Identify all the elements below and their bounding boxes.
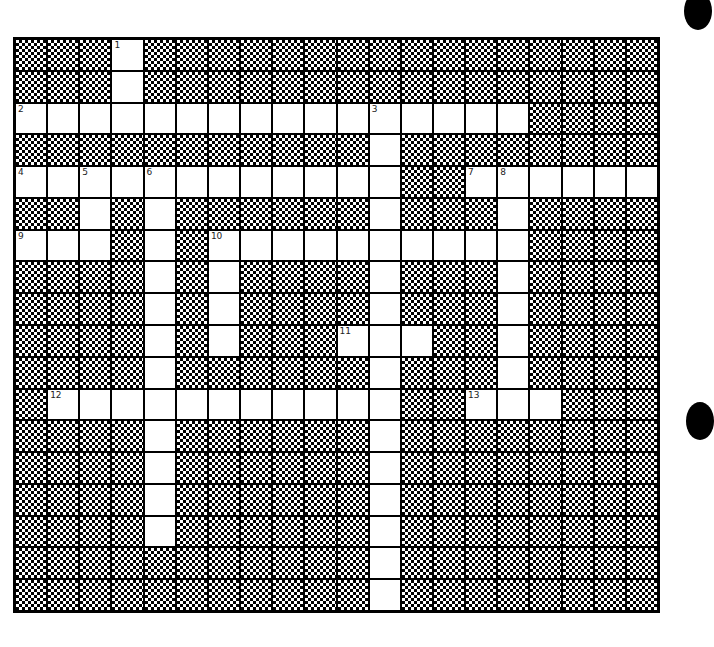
crossword-cell[interactable] (304, 103, 336, 135)
crossword-cell[interactable]: 2 (15, 103, 47, 135)
crossword-cell[interactable] (272, 103, 304, 135)
crossword-cell[interactable] (529, 166, 561, 198)
crossword-cell[interactable] (144, 103, 176, 135)
crossword-cell[interactable] (497, 198, 529, 230)
crossword-cell[interactable]: 5 (79, 166, 111, 198)
crossword-cell[interactable]: 8 (497, 166, 529, 198)
crossword-cell[interactable] (369, 420, 401, 452)
crossword-cell[interactable] (208, 103, 240, 135)
crossword-cell[interactable]: 3 (369, 103, 401, 135)
crossword-cell[interactable] (144, 293, 176, 325)
blocked-cell (594, 484, 626, 516)
crossword-cell[interactable] (337, 230, 369, 262)
crossword-cell[interactable] (304, 166, 336, 198)
crossword-cell[interactable] (369, 357, 401, 389)
crossword-cell[interactable] (272, 166, 304, 198)
crossword-cell[interactable] (369, 261, 401, 293)
crossword-cell[interactable]: 10 (208, 230, 240, 262)
crossword-cell[interactable] (208, 166, 240, 198)
crossword-cell[interactable] (304, 230, 336, 262)
crossword-cell[interactable] (176, 389, 208, 421)
crossword-cell[interactable]: 6 (144, 166, 176, 198)
crossword-cell[interactable] (529, 389, 561, 421)
crossword-cell[interactable] (79, 389, 111, 421)
blocked-cell (529, 547, 561, 579)
blocked-cell (401, 293, 433, 325)
blocked-cell (626, 516, 658, 548)
crossword-cell[interactable] (369, 452, 401, 484)
crossword-cell[interactable] (144, 230, 176, 262)
crossword-cell[interactable] (497, 389, 529, 421)
crossword-cell[interactable] (369, 134, 401, 166)
crossword-cell[interactable] (208, 325, 240, 357)
crossword-cell[interactable] (562, 166, 594, 198)
crossword-cell[interactable]: 12 (47, 389, 79, 421)
crossword-cell[interactable] (144, 484, 176, 516)
crossword-cell[interactable] (497, 261, 529, 293)
crossword-cell[interactable] (111, 389, 143, 421)
crossword-cell[interactable] (144, 420, 176, 452)
crossword-cell[interactable] (144, 261, 176, 293)
crossword-cell[interactable] (433, 103, 465, 135)
crossword-cell[interactable]: 7 (465, 166, 497, 198)
crossword-cell[interactable] (369, 547, 401, 579)
crossword-cell[interactable] (369, 230, 401, 262)
crossword-cell[interactable] (401, 103, 433, 135)
crossword-cell[interactable] (240, 103, 272, 135)
crossword-cell[interactable] (369, 579, 401, 611)
crossword-cell[interactable] (497, 357, 529, 389)
crossword-cell[interactable] (626, 166, 658, 198)
crossword-cell[interactable]: 4 (15, 166, 47, 198)
crossword-cell[interactable] (144, 357, 176, 389)
crossword-cell[interactable] (369, 293, 401, 325)
crossword-cell[interactable]: 11 (337, 325, 369, 357)
crossword-cell[interactable] (369, 198, 401, 230)
crossword-cell[interactable] (79, 103, 111, 135)
crossword-cell[interactable] (304, 389, 336, 421)
crossword-cell[interactable] (465, 230, 497, 262)
crossword-cell[interactable] (176, 166, 208, 198)
crossword-cell[interactable] (369, 516, 401, 548)
crossword-cell[interactable] (79, 230, 111, 262)
crossword-cell[interactable] (369, 325, 401, 357)
crossword-cell[interactable] (433, 230, 465, 262)
crossword-cell[interactable] (337, 389, 369, 421)
crossword-cell[interactable]: 1 (111, 39, 143, 71)
crossword-cell[interactable] (208, 389, 240, 421)
crossword-cell[interactable] (144, 516, 176, 548)
crossword-cell[interactable] (497, 103, 529, 135)
crossword-cell[interactable] (594, 166, 626, 198)
crossword-cell[interactable] (465, 103, 497, 135)
crossword-cell[interactable] (240, 389, 272, 421)
crossword-cell[interactable] (497, 325, 529, 357)
crossword-cell[interactable] (272, 230, 304, 262)
crossword-cell[interactable] (497, 293, 529, 325)
crossword-cell[interactable] (240, 166, 272, 198)
crossword-cell[interactable] (176, 103, 208, 135)
crossword-cell[interactable] (144, 325, 176, 357)
crossword-cell[interactable] (144, 198, 176, 230)
crossword-cell[interactable] (111, 103, 143, 135)
crossword-cell[interactable] (111, 71, 143, 103)
crossword-cell[interactable] (369, 389, 401, 421)
crossword-cell[interactable] (272, 389, 304, 421)
crossword-cell[interactable] (144, 452, 176, 484)
crossword-cell[interactable] (401, 230, 433, 262)
crossword-cell[interactable] (337, 103, 369, 135)
crossword-cell[interactable] (79, 198, 111, 230)
crossword-cell[interactable] (401, 325, 433, 357)
crossword-cell[interactable] (144, 389, 176, 421)
crossword-cell[interactable] (337, 166, 369, 198)
crossword-cell[interactable]: 9 (15, 230, 47, 262)
crossword-cell[interactable] (240, 230, 272, 262)
crossword-cell[interactable] (47, 166, 79, 198)
crossword-cell[interactable] (497, 230, 529, 262)
crossword-cell[interactable] (369, 166, 401, 198)
crossword-cell[interactable] (208, 293, 240, 325)
crossword-cell[interactable]: 13 (465, 389, 497, 421)
crossword-cell[interactable] (369, 484, 401, 516)
crossword-cell[interactable] (47, 230, 79, 262)
crossword-cell[interactable] (208, 261, 240, 293)
crossword-cell[interactable] (47, 103, 79, 135)
crossword-cell[interactable] (111, 166, 143, 198)
